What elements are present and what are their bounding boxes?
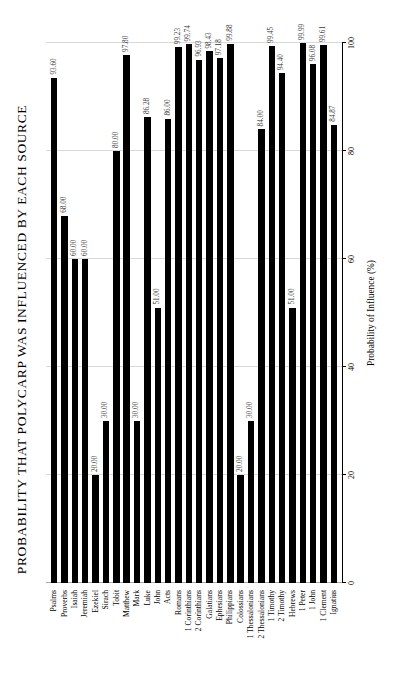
- bar-value-label: 84.87: [330, 106, 337, 122]
- bar-value-label: 94.40: [278, 54, 285, 70]
- bar-row[interactable]: 99.99: [298, 43, 308, 583]
- bar-value-label: 30.00: [133, 402, 140, 418]
- bar[interactable]: [269, 46, 275, 583]
- bar-value-label: 96.93: [196, 40, 203, 56]
- bar-row[interactable]: 84.00: [256, 43, 266, 583]
- bar[interactable]: [92, 475, 98, 583]
- category-label: Colossians: [235, 585, 245, 679]
- bar[interactable]: [320, 45, 326, 583]
- bar-row[interactable]: 99.88: [225, 43, 235, 583]
- category-label: Ezekiel: [90, 585, 100, 679]
- value-tick-label: 60: [347, 255, 356, 263]
- bar-value-label: 99.61: [320, 26, 327, 42]
- x-axis-title: Probability of Influence (%): [366, 43, 376, 583]
- bar-row[interactable]: 86.28: [142, 43, 152, 583]
- bar-value-label: 30.00: [102, 402, 109, 418]
- category-label: 1 John: [308, 585, 318, 679]
- plot-area: 93.6068.0060.0060.0020.0030.0080.0097.80…: [46, 43, 342, 583]
- bar-value-label: 68.00: [61, 197, 68, 213]
- category-label: Luke: [142, 585, 152, 679]
- category-label: Mark: [132, 585, 142, 679]
- bar-value-label: 51.00: [289, 288, 296, 304]
- bar-row[interactable]: 84.87: [329, 43, 339, 583]
- category-label: 1 Corinthians: [184, 585, 194, 679]
- bar-row[interactable]: 94.40: [277, 43, 287, 583]
- bar-row[interactable]: 99.61: [318, 43, 328, 583]
- bar-series: 93.6068.0060.0060.0020.0030.0080.0097.80…: [46, 43, 342, 583]
- bar[interactable]: [227, 44, 233, 583]
- chart-title: PROBABILITY THAT POLYCARP WAS INFLUENCED…: [14, 0, 30, 679]
- bar-row[interactable]: 99.23: [173, 43, 183, 583]
- bar[interactable]: [82, 259, 88, 583]
- category-label: Proverbs: [59, 585, 69, 679]
- bar-row[interactable]: 20.00: [90, 43, 100, 583]
- bar-row[interactable]: 96.93: [194, 43, 204, 583]
- bar-row[interactable]: 51.00: [287, 43, 297, 583]
- bar-row[interactable]: 93.60: [49, 43, 59, 583]
- bar-row[interactable]: 96.08: [308, 43, 318, 583]
- bar[interactable]: [134, 421, 140, 583]
- bar-row[interactable]: 30.00: [132, 43, 142, 583]
- category-label: John: [153, 585, 163, 679]
- bar[interactable]: [175, 47, 181, 583]
- bar[interactable]: [206, 51, 212, 583]
- bar-row[interactable]: 86.00: [163, 43, 173, 583]
- value-tick-mark: [342, 42, 346, 43]
- bar-row[interactable]: 80.00: [111, 43, 121, 583]
- bar[interactable]: [113, 151, 119, 583]
- bar[interactable]: [217, 58, 223, 583]
- bar-row[interactable]: 97.80: [122, 43, 132, 583]
- bar-row[interactable]: 97.18: [215, 43, 225, 583]
- bar-row[interactable]: 51.00: [153, 43, 163, 583]
- bar-value-label: 30.00: [247, 402, 254, 418]
- bar[interactable]: [237, 475, 243, 583]
- category-label: 1 Thessalonians: [246, 585, 256, 679]
- bar[interactable]: [144, 117, 150, 583]
- value-tick-mark: [342, 258, 346, 259]
- bar-value-label: 98.43: [206, 32, 213, 48]
- category-label: Acts: [163, 585, 173, 679]
- category-label: Jeremiah: [80, 585, 90, 679]
- bar[interactable]: [186, 44, 192, 583]
- bar[interactable]: [51, 78, 57, 583]
- category-label: Hebrews: [287, 585, 297, 679]
- bar-row[interactable]: 99.74: [184, 43, 194, 583]
- bar-value-label: 99.23: [175, 28, 182, 44]
- bar-value-label: 20.00: [92, 456, 99, 472]
- bar[interactable]: [248, 421, 254, 583]
- bar-row[interactable]: 20.00: [235, 43, 245, 583]
- bar[interactable]: [103, 421, 109, 583]
- bar-row[interactable]: 60.00: [80, 43, 90, 583]
- bar[interactable]: [196, 60, 202, 583]
- category-label: 2 Thessalonians: [256, 585, 266, 679]
- bar[interactable]: [310, 64, 316, 583]
- bar-row[interactable]: 30.00: [101, 43, 111, 583]
- bar-value-label: 84.00: [258, 110, 265, 126]
- bar-row[interactable]: 30.00: [246, 43, 256, 583]
- bar-value-label: 80.00: [113, 132, 120, 148]
- bar-value-label: 96.08: [310, 45, 317, 61]
- bar[interactable]: [165, 119, 171, 583]
- bar[interactable]: [331, 125, 337, 583]
- category-label: Philippians: [225, 585, 235, 679]
- bar[interactable]: [289, 308, 295, 583]
- bar[interactable]: [155, 308, 161, 583]
- bar-row[interactable]: 60.00: [70, 43, 80, 583]
- bar-row[interactable]: 68.00: [59, 43, 69, 583]
- bar[interactable]: [279, 73, 285, 583]
- bar[interactable]: [300, 43, 306, 583]
- category-label: Romans: [173, 585, 183, 679]
- bar[interactable]: [123, 55, 129, 583]
- bar[interactable]: [61, 216, 67, 583]
- bar[interactable]: [258, 129, 264, 583]
- bar-row[interactable]: 98.43: [204, 43, 214, 583]
- value-tick-label: 100: [347, 37, 356, 49]
- bar-row[interactable]: 99.45: [267, 43, 277, 583]
- bar-chart-figure: PROBABILITY THAT POLYCARP WAS INFLUENCED…: [0, 0, 416, 679]
- value-tick-mark: [342, 582, 346, 583]
- bar[interactable]: [72, 259, 78, 583]
- category-label: Matthew: [122, 585, 132, 679]
- bar-value-label: 86.28: [144, 98, 151, 114]
- category-label: 1 Clement: [318, 585, 328, 679]
- bar-value-label: 97.18: [216, 39, 223, 55]
